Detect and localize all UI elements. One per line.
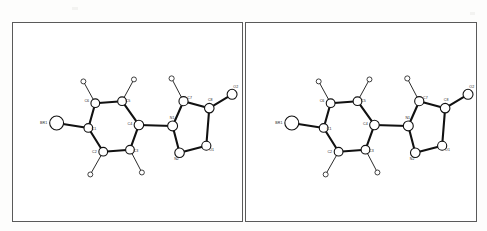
atom-label-c4: C4 [363,122,368,126]
atom-h3 [139,170,144,175]
atom-c2 [334,147,343,156]
atom-n2 [410,148,420,158]
atom-label-c4: C4 [128,122,133,126]
bond-group-right [292,78,468,174]
atom-label-c2: C2 [327,150,332,154]
atom-h7 [169,76,174,81]
stereo-view-right-panel: BR1C1C6C5C4C3C2N1C7C8O1N2O2 [245,22,477,222]
scan-artifact [470,12,475,15]
atom-c8 [440,103,450,113]
atom-h6 [316,79,321,84]
atom-label-br1: BR1 [275,121,282,125]
atom-br1 [285,116,299,130]
bond-c8-o1 [442,108,445,146]
bond-group-left [57,78,232,174]
atom-label-c2: C2 [92,150,97,154]
atom-h2 [88,172,93,177]
atom-c2 [99,147,108,156]
atom-label-c8: C8 [208,98,213,102]
atom-label-o1: O1 [445,148,450,152]
atom-o2 [227,89,237,99]
atom-label-c3: C3 [369,149,374,153]
stereo-view-left-panel: BR1C1C6C5C4C3C2N1C7C8O1N2O2 [12,22,243,222]
atom-n1 [168,121,178,131]
atom-o2 [463,89,473,99]
atom-label-c7: C7 [187,96,192,100]
atom-label-c8: C8 [444,98,449,102]
bond-c8-o1 [206,108,209,146]
atom-label-n1: N1 [405,116,410,120]
molecule-diagram-right: BR1C1C6C5C4C3C2N1C7C8O1N2O2 [246,23,476,221]
atom-c6 [326,99,335,108]
atom-h7 [405,76,410,81]
scan-artifact [72,7,78,10]
atom-label-n2: N2 [174,157,179,161]
figure-sheet: BR1C1C6C5C4C3C2N1C7C8O1N2O2 BR1C1C6C5C4C… [0,0,487,231]
atom-n2 [175,148,185,158]
atom-label-o1: O1 [209,148,214,152]
atom-h3 [375,170,380,175]
atom-br1 [50,116,64,130]
atom-h5 [367,77,372,82]
atom-label-c7: C7 [423,96,428,100]
atom-h5 [131,77,136,82]
atom-label-o2: O2 [233,85,238,89]
atom-label-br1: BR1 [40,121,47,125]
atom-c4 [134,120,144,130]
atom-label-o2: O2 [469,85,474,89]
atom-h6 [81,79,86,84]
atom-label-n2: N2 [410,157,415,161]
atom-label-c6: C6 [320,99,325,103]
atom-label-c1: C1 [327,127,332,131]
molecule-diagram-left: BR1C1C6C5C4C3C2N1C7C8O1N2O2 [13,23,242,221]
atom-label-c1: C1 [92,127,97,131]
atom-label-n1: N1 [170,116,175,120]
atom-label-c5: C5 [126,99,131,103]
atom-c6 [91,99,100,108]
atom-n1 [403,121,413,131]
atom-h2 [323,172,328,177]
atom-c8 [205,103,215,113]
atom-label-c6: C6 [84,99,89,103]
atom-c4 [370,120,380,130]
atom-label-c3: C3 [134,149,139,153]
atom-label-c5: C5 [361,99,366,103]
